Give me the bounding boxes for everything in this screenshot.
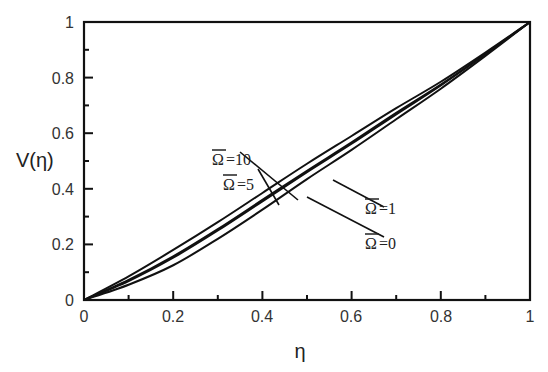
- x-axis-label: η: [294, 340, 305, 362]
- y-tick-0.6: 0.6: [52, 125, 74, 142]
- data-curves: [84, 22, 530, 300]
- curve-1: [84, 22, 530, 300]
- omega-value: =10: [226, 151, 251, 168]
- annotation-omega-5: Ω =5: [223, 175, 254, 193]
- y-tick-0.4: 0.4: [52, 181, 74, 198]
- omega-symbol: Ω: [365, 200, 377, 217]
- omega-symbol: Ω: [212, 151, 224, 168]
- y-tick-labels: 0 0.2 0.4 0.6 0.8 1: [52, 14, 74, 309]
- omega-symbol: Ω: [365, 235, 377, 252]
- omega-value: =0: [379, 235, 396, 252]
- omega-symbol: Ω: [223, 176, 235, 193]
- plot-frame: [84, 22, 530, 300]
- y-tick-0.2: 0.2: [52, 236, 74, 253]
- x-tick-0: 0: [80, 308, 89, 325]
- y-tick-1: 1: [65, 14, 74, 31]
- omega-value: =1: [379, 200, 396, 217]
- velocity-profile-chart: 0 0.2 0.4 0.6 0.8 1 0 0.2 0.4 0.6 0.8 1 …: [0, 0, 548, 372]
- annotation-omega-1: Ω =1: [365, 199, 396, 217]
- x-tick-0.8: 0.8: [430, 308, 452, 325]
- omega-value: =5: [237, 176, 254, 193]
- axis-ticks: [84, 50, 485, 300]
- y-tick-0.8: 0.8: [52, 70, 74, 87]
- annotation-omega-10: Ω =10: [212, 150, 251, 168]
- y-axis-label: V(η): [16, 149, 54, 171]
- x-tick-0.4: 0.4: [251, 308, 273, 325]
- y-tick-0: 0: [65, 292, 74, 309]
- curve-0: [84, 22, 530, 300]
- x-tick-labels: 0 0.2 0.4 0.6 0.8 1: [80, 308, 535, 325]
- x-tick-0.2: 0.2: [162, 308, 184, 325]
- annotation-omega-0: Ω =0: [365, 234, 396, 252]
- curve-5: [84, 22, 530, 300]
- x-tick-1: 1: [526, 308, 535, 325]
- x-tick-0.6: 0.6: [340, 308, 362, 325]
- curve-10: [84, 22, 530, 300]
